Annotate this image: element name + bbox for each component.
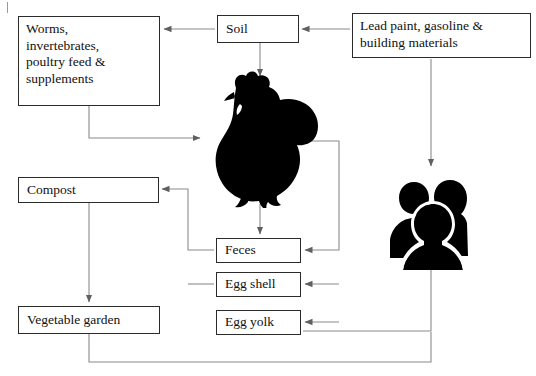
box-feces[interactable]: Feces: [216, 238, 301, 263]
box-egg-yolk[interactable]: Egg yolk: [216, 310, 301, 335]
edge-vegetablegarden-to-people: [89, 332, 431, 362]
box-worms-invertebrates-feed[interactable]: Worms, invertebrates, poultry feed & sup…: [18, 16, 160, 106]
box-vegetable-garden[interactable]: Vegetable garden: [18, 306, 160, 334]
people-group-silhouette: [388, 170, 478, 270]
edge-worms-to-chicken: [89, 106, 200, 138]
page-artifact-tick: [7, 2, 8, 13]
chicken-silhouette: [196, 68, 322, 208]
box-lead-paint-gasoline-building-materials[interactable]: Lead paint, gasoline & building material…: [352, 13, 531, 58]
box-egg-shell[interactable]: Egg shell: [216, 272, 301, 297]
diagram-canvas: Worms, invertebrates, poultry feed & sup…: [0, 0, 536, 376]
box-compost[interactable]: Compost: [18, 177, 159, 203]
box-soil[interactable]: Soil: [217, 15, 299, 43]
